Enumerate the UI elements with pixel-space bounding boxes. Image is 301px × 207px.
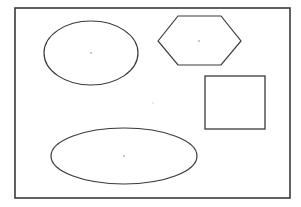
square [205,76,265,129]
center-dot [90,52,92,54]
center-dot [123,155,125,157]
top-left-ellipse [44,21,138,85]
diagram-canvas [0,0,301,207]
bottom-ellipse [51,128,197,184]
stray-dot [152,102,154,104]
hexagon [158,16,241,65]
center-dot [198,40,200,42]
